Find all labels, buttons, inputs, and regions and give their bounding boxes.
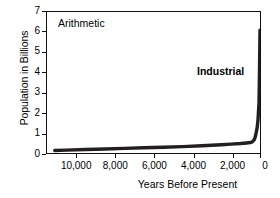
y-tick-label-0: 0: [26, 149, 40, 159]
y-tick-label-7: 7: [26, 6, 40, 16]
y-tick-label-3: 3: [26, 87, 40, 97]
x-tick-mark-0: [260, 154, 261, 158]
y-tick-label-1: 1: [26, 128, 40, 138]
y-tick-mark-0: [42, 154, 46, 155]
y-tick-label-4-wrap: 4: [22, 67, 40, 77]
x-tick-mark-6000: [154, 154, 155, 158]
x-axis-title: Years Before Present: [100, 178, 275, 190]
annotation-arithmetic: Arithmetic: [58, 17, 105, 29]
x-tick-mark-8000: [115, 154, 116, 158]
plot-area: Arithmetic Industrial: [46, 11, 261, 154]
y-tick-label-4: 4: [26, 67, 40, 77]
x-tick-mark-10000: [76, 154, 77, 158]
y-tick-label-2-wrap: 2: [22, 108, 40, 118]
population-curve: [47, 12, 260, 153]
y-tick-label-6-wrap: 6: [22, 26, 40, 36]
x-tick-mark-4000: [194, 154, 195, 158]
y-tick-label-5-wrap: 5: [22, 46, 40, 56]
y-tick-label-7-wrap: 7: [22, 6, 40, 16]
y-tick-label-3-wrap: 3: [22, 87, 40, 97]
y-tick-label-1-wrap: 1: [22, 128, 40, 138]
population-curve-line: [55, 30, 260, 150]
y-tick-label-0-wrap: 0: [22, 149, 40, 159]
annotation-industrial: Industrial: [197, 65, 244, 77]
x-tick-label-0-wrap: 0: [242, 160, 280, 172]
y-tick-label-2: 2: [26, 108, 40, 118]
population-growth-chart: Population in Billions 7 6 5 4 3 2 1 0 A…: [0, 0, 280, 198]
x-tick-mark-2000: [233, 154, 234, 158]
y-tick-label-5: 5: [26, 46, 40, 56]
y-tick-label-6: 6: [26, 26, 40, 36]
x-tick-label-0: 0: [242, 160, 280, 172]
